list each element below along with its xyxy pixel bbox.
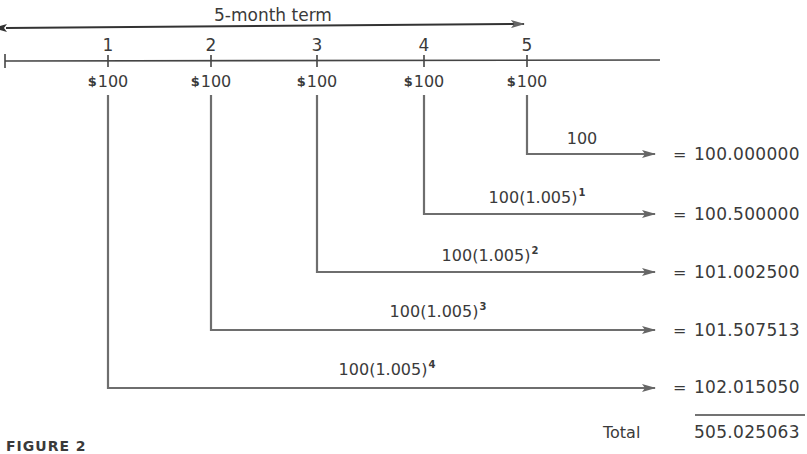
dollar-sign: $ bbox=[191, 74, 200, 89]
expression-base: 100(1.005) bbox=[489, 188, 578, 207]
period-number-3: 3 bbox=[312, 37, 323, 54]
term-label: 5-month term bbox=[214, 7, 332, 24]
expression-base: 100(1.005) bbox=[390, 302, 479, 321]
expression-base: 100(1.005) bbox=[339, 360, 428, 379]
timeline-axis bbox=[5, 54, 660, 68]
expression-base: 100(1.005) bbox=[442, 246, 531, 265]
total-value: 505.025063 bbox=[694, 424, 800, 441]
amount-value: 100 bbox=[307, 72, 338, 91]
dollar-sign: $ bbox=[404, 74, 413, 89]
figure-caption: FIGURE 2 bbox=[6, 439, 87, 453]
deposit-amount-5: $100 bbox=[507, 74, 548, 90]
expression-period-1: 100(1.005)4 bbox=[339, 360, 436, 378]
equals-sign-row-3: = bbox=[673, 265, 686, 281]
deposit-amount-2: $100 bbox=[191, 74, 232, 90]
deposit-amount-1: $100 bbox=[88, 74, 129, 90]
value-row-5: 102.015050 bbox=[694, 379, 800, 396]
expression-period-2: 100(1.005)3 bbox=[390, 302, 487, 320]
expression-period-3: 100(1.005)2 bbox=[442, 246, 539, 264]
expression-period-4: 100(1.005)1 bbox=[489, 188, 586, 206]
total-label: Total bbox=[603, 425, 640, 441]
period-number-5: 5 bbox=[522, 37, 533, 54]
value-row-2: 100.500000 bbox=[694, 206, 800, 223]
value-row-3: 101.002500 bbox=[694, 264, 800, 281]
amount-value: 100 bbox=[517, 72, 548, 91]
value-row-1: 100.000000 bbox=[694, 146, 800, 163]
amount-value: 100 bbox=[414, 72, 445, 91]
deposit-amount-3: $100 bbox=[297, 74, 338, 90]
period-number-1: 1 bbox=[103, 37, 114, 54]
dollar-sign: $ bbox=[88, 74, 97, 89]
expression-base: 100 bbox=[567, 129, 598, 148]
expression-period-5: 100 bbox=[567, 131, 598, 147]
value-row-4: 101.507513 bbox=[694, 322, 800, 339]
expression-exponent: 4 bbox=[428, 359, 435, 370]
expression-exponent: 2 bbox=[531, 245, 538, 256]
deposit-amount-4: $100 bbox=[404, 74, 445, 90]
equals-sign-row-1: = bbox=[673, 147, 686, 163]
dollar-sign: $ bbox=[507, 74, 516, 89]
expression-exponent: 1 bbox=[578, 187, 585, 198]
period-number-4: 4 bbox=[419, 37, 430, 54]
equals-sign-row-5: = bbox=[673, 380, 686, 396]
amount-value: 100 bbox=[98, 72, 129, 91]
expression-exponent: 3 bbox=[479, 301, 486, 312]
period-number-2: 2 bbox=[206, 37, 217, 54]
equals-sign-row-2: = bbox=[673, 207, 686, 223]
dollar-sign: $ bbox=[297, 74, 306, 89]
equals-sign-row-4: = bbox=[673, 323, 686, 339]
amount-value: 100 bbox=[201, 72, 232, 91]
